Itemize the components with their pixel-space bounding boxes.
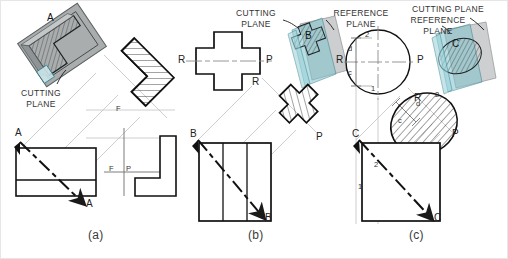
panel-c-aux-dim-label-d: d xyxy=(416,99,420,108)
panel-c-caption: (c) xyxy=(409,228,424,242)
panel-b-reference-plane-note-line2: PLANE xyxy=(330,19,392,29)
panel-c-aux-dim-label-c: c xyxy=(398,116,402,125)
panel-a-pictorial-label-A: A xyxy=(47,12,54,23)
panel-b-pictorial-label-B: B xyxy=(305,30,312,41)
panel-c-point-label-1-front: 1 xyxy=(371,84,375,93)
panel-c-cut-label-start: C xyxy=(352,128,360,139)
panel-c-ref-label-P-aux: P xyxy=(452,128,459,139)
panel-a-profile-view xyxy=(135,136,176,196)
panel-a-front-view xyxy=(16,148,96,196)
panel-a-fold-label-F-upper: F xyxy=(116,104,121,113)
panel-a-fold-label-P: P xyxy=(126,164,131,173)
panel-c-point-label-2-aux: 2 xyxy=(435,90,439,99)
panel-b-cut-label-end: B xyxy=(265,212,272,223)
panel-a-auxiliary-section xyxy=(106,38,174,106)
panel-b-group xyxy=(186,16,348,221)
panel-c-front-view xyxy=(344,26,414,100)
panel-a-caption: (a) xyxy=(88,228,104,242)
panel-a-fold-label-F: F xyxy=(109,164,114,173)
panel-c-group xyxy=(344,18,496,224)
panel-a-cut-label-start: A xyxy=(15,127,22,138)
panel-c-reference-plane-note-line2: PLANE xyxy=(396,26,480,36)
panel-a-cutting-plane-note-line1: CUTTING xyxy=(8,88,74,98)
panel-b-cutting-plane-note-line1: CUTTING xyxy=(226,8,286,18)
panel-b-ref-label-R-front: R xyxy=(178,54,186,65)
panel-b-cut-label-start: B xyxy=(190,128,197,139)
panel-c-cut-label-end: C xyxy=(434,212,442,223)
panel-b-reference-plane-note-line1: REFERENCE xyxy=(330,8,392,18)
panel-c-cutting-plane-note: CUTTING PLANE xyxy=(396,4,500,14)
panel-b-ref-label-P-front: P xyxy=(266,54,273,65)
panel-c-dim-label-c: c xyxy=(348,68,352,77)
panel-c-pictorial-label-C: C xyxy=(452,38,460,49)
panel-c-dim-label-d: d xyxy=(348,44,352,53)
figure-root: CUTTING PLANE A A A F F P (a) CUTTING PL… xyxy=(0,0,508,259)
panel-b-cutting-plane-note-line2: PLANE xyxy=(226,19,286,29)
panel-c-ref-label-R-front: R xyxy=(336,54,344,65)
panel-c-ref-label-P-front: P xyxy=(417,54,424,65)
panel-b-auxiliary-section xyxy=(271,76,326,131)
panel-a-cutting-plane-note-line2: PLANE xyxy=(8,99,74,109)
panel-c-point-label-2-front: 2 xyxy=(365,30,369,39)
panel-b-ref-label-R-aux: R xyxy=(252,76,260,87)
panel-c-point-label-2-lower: 2 xyxy=(374,160,378,169)
engineering-drawing-canvas xyxy=(0,0,508,259)
panel-b-ref-label-P-aux: P xyxy=(316,131,323,142)
panel-c-reference-plane-note-line1: REFERENCE xyxy=(396,15,480,25)
panel-c-point-label-1-lower: 1 xyxy=(358,182,362,191)
panel-b-caption: (b) xyxy=(248,228,264,242)
panel-a-cut-label-end: A xyxy=(86,198,93,209)
panel-a-pictorial xyxy=(18,3,107,86)
